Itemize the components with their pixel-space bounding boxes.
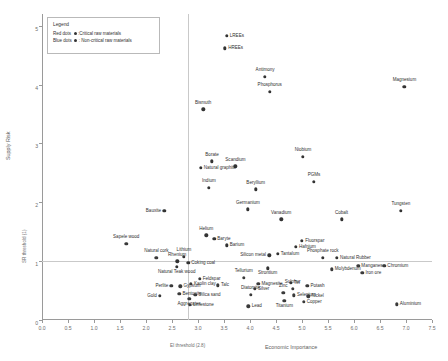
data-point[interactable] [242, 276, 245, 279]
x-tick [42, 320, 43, 323]
data-point[interactable] [300, 239, 303, 242]
x-tick [276, 320, 277, 323]
data-point[interactable] [249, 293, 252, 296]
data-point[interactable] [254, 188, 257, 191]
data-point[interactable] [225, 34, 228, 37]
data-point-label: Phosphate rock [307, 249, 339, 254]
legend-item-suffix: : Non-critical raw materials [79, 38, 132, 43]
data-point[interactable] [302, 300, 305, 303]
data-point-label: Chromium [387, 264, 408, 269]
data-point-label: Antimony [256, 69, 275, 74]
data-point[interactable] [175, 265, 178, 268]
y-tick [39, 202, 42, 203]
data-point[interactable] [335, 256, 338, 259]
data-point[interactable] [263, 75, 266, 78]
data-point[interactable] [399, 209, 402, 212]
x-tick-label: 3.5 [220, 325, 227, 331]
data-point[interactable] [216, 284, 219, 287]
data-point-label: Tungsten [391, 202, 410, 207]
data-point-label: Talc [221, 283, 229, 288]
y-tick [39, 320, 42, 321]
x-tick [198, 320, 199, 323]
y-tick [39, 261, 42, 262]
data-point[interactable] [268, 254, 271, 257]
data-point[interactable] [175, 259, 178, 262]
data-point[interactable] [210, 159, 213, 162]
data-point-label: Natural cork [144, 249, 169, 254]
data-point-label: Strontium [258, 271, 277, 276]
x-tick-label: 1.5 [116, 325, 123, 331]
x-tick-label: 2.5 [168, 325, 175, 331]
data-point-label: Magnesium [393, 79, 417, 84]
data-point[interactable] [291, 287, 294, 290]
data-point[interactable] [305, 284, 308, 287]
x-tick-label: 7.0 [402, 325, 409, 331]
x-axis-label: Economic Importance [265, 344, 317, 350]
data-point[interactable] [199, 166, 202, 169]
legend-title: Legend [53, 22, 154, 27]
data-point[interactable] [170, 284, 173, 287]
x-tick-label: 5.0 [298, 325, 305, 331]
data-point[interactable] [247, 305, 250, 308]
x-tick [406, 320, 407, 323]
data-point[interactable] [212, 237, 215, 240]
data-point[interactable] [292, 294, 295, 297]
data-point-label: Perlite [155, 284, 168, 289]
data-point[interactable] [301, 155, 304, 158]
data-point[interactable] [201, 108, 204, 111]
data-point[interactable] [158, 294, 161, 297]
legend-dot-critical-icon [74, 32, 77, 35]
sr-threshold-label: SR threshold (1) [22, 230, 27, 263]
data-point-label: Cobalt [335, 211, 348, 216]
x-tick-label: 0.5 [64, 325, 71, 331]
x-tick-label: 6.0 [350, 325, 357, 331]
data-point[interactable] [205, 234, 208, 237]
data-point[interactable] [187, 297, 190, 300]
data-point-label: HREEs [228, 46, 243, 51]
data-point-label: Scandium [225, 158, 245, 163]
x-tick [146, 320, 147, 323]
data-point[interactable] [283, 299, 286, 302]
data-point[interactable] [186, 261, 189, 264]
data-point[interactable] [395, 302, 398, 305]
x-tick-label: 1.0 [90, 325, 97, 331]
x-tick-label: 0.0 [38, 325, 45, 331]
y-axis-line [42, 14, 43, 320]
data-point-label: Barium [230, 243, 244, 248]
data-point[interactable] [178, 292, 181, 295]
data-point[interactable] [321, 256, 324, 259]
data-point[interactable] [312, 180, 315, 183]
data-point[interactable] [340, 218, 343, 221]
data-point-label: Lead [252, 304, 262, 309]
y-tick [39, 85, 42, 86]
data-point[interactable] [361, 271, 364, 274]
legend-item: Blue dots : Non-critical raw materials [53, 38, 154, 43]
data-point[interactable] [225, 244, 228, 247]
data-point[interactable] [155, 256, 158, 259]
data-point[interactable] [279, 218, 282, 221]
data-point[interactable] [282, 291, 285, 294]
data-point[interactable] [268, 90, 271, 93]
data-point[interactable] [246, 208, 249, 211]
data-point-label: Titanium [276, 304, 293, 309]
data-point[interactable] [330, 268, 333, 271]
data-point[interactable] [207, 186, 210, 189]
data-point[interactable] [403, 85, 406, 88]
data-point[interactable] [266, 267, 269, 270]
data-point-label: Bauxite [146, 208, 161, 213]
x-tick-label: 3.0 [194, 325, 201, 331]
data-point-label: Indium [202, 179, 216, 184]
y-tick-label: 2 [35, 202, 38, 208]
data-point[interactable] [179, 285, 182, 288]
legend-item-prefix: Red dots [53, 31, 71, 36]
data-point-label: Beryllium [246, 181, 265, 186]
data-point[interactable] [294, 245, 297, 248]
data-point[interactable] [223, 46, 226, 49]
data-point[interactable] [125, 242, 128, 245]
x-tick [432, 320, 433, 323]
data-point[interactable] [276, 252, 279, 255]
data-point-label: Coking coal [191, 261, 215, 266]
data-point[interactable] [162, 209, 165, 212]
y-tick-label: 3 [35, 143, 38, 149]
data-point-label: LREEs [230, 33, 244, 38]
